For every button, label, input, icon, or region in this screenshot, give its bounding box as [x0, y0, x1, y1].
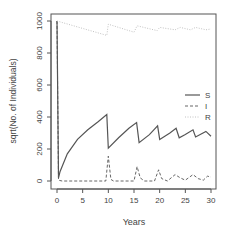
- legend-label-i: I: [205, 102, 207, 111]
- x-tick-label: 5: [80, 196, 85, 205]
- y-tick-label: 800: [35, 46, 44, 60]
- series-i-line: [57, 21, 211, 181]
- series-s-line: [57, 21, 211, 178]
- x-tick-label: 25: [181, 196, 190, 205]
- legend: SIR: [185, 91, 211, 122]
- y-tick-label: 400: [35, 110, 44, 124]
- x-tick-label: 10: [104, 196, 113, 205]
- y-tick-label: 600: [35, 78, 44, 92]
- x-axis-label: Years: [123, 217, 146, 227]
- y-tick-label: 1000: [35, 12, 44, 30]
- sir-line-chart: 051015202530 02004006008001000 Years sqr…: [0, 0, 231, 236]
- y-axis-label: sqrt(No. of Individuals): [8, 58, 18, 143]
- series-layer: [57, 21, 211, 181]
- y-tick-label: 200: [35, 142, 44, 156]
- y-tick-label: 0: [35, 178, 44, 183]
- legend-label-r: R: [205, 113, 211, 122]
- x-tick-label: 0: [55, 196, 60, 205]
- y-axis: 02004006008001000: [35, 12, 51, 184]
- series-r-line: [57, 21, 211, 35]
- x-axis: 051015202530: [55, 189, 216, 205]
- legend-label-s: S: [205, 91, 210, 100]
- plot-frame: [51, 14, 216, 189]
- x-tick-label: 30: [207, 196, 216, 205]
- x-tick-label: 15: [130, 196, 139, 205]
- x-tick-label: 20: [155, 196, 164, 205]
